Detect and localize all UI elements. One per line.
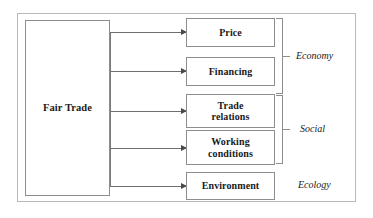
diagram-canvas: Fair Trade Price Financing Trade relatio… bbox=[0, 0, 373, 218]
bracket-social bbox=[276, 95, 283, 164]
group-label-economy: Economy bbox=[296, 50, 333, 61]
bracket-tick-economy bbox=[283, 56, 290, 57]
node-working-conditions-label: Working conditions bbox=[208, 136, 253, 159]
arrow-to-financing bbox=[110, 71, 186, 72]
arrow-to-price bbox=[110, 32, 186, 33]
node-fair-trade[interactable]: Fair Trade bbox=[25, 20, 110, 196]
arrow-to-environment bbox=[110, 186, 186, 187]
arrow-to-trade-relations bbox=[110, 111, 186, 112]
node-price-label: Price bbox=[219, 27, 242, 39]
bracket-economy bbox=[276, 18, 283, 94]
node-financing[interactable]: Financing bbox=[186, 57, 275, 86]
node-working-conditions[interactable]: Working conditions bbox=[186, 130, 275, 165]
node-fair-trade-label: Fair Trade bbox=[43, 102, 92, 114]
group-label-social: Social bbox=[300, 123, 325, 134]
node-trade-relations-label: Trade relations bbox=[212, 100, 250, 123]
node-financing-label: Financing bbox=[209, 66, 253, 78]
bracket-tick-social bbox=[283, 129, 290, 130]
node-price[interactable]: Price bbox=[186, 18, 275, 47]
group-label-ecology: Ecology bbox=[298, 179, 331, 190]
node-environment[interactable]: Environment bbox=[186, 172, 275, 200]
arrow-to-working-conditions bbox=[110, 148, 186, 149]
node-environment-label: Environment bbox=[202, 180, 260, 192]
connector-stem bbox=[110, 32, 111, 187]
node-trade-relations[interactable]: Trade relations bbox=[186, 94, 275, 128]
